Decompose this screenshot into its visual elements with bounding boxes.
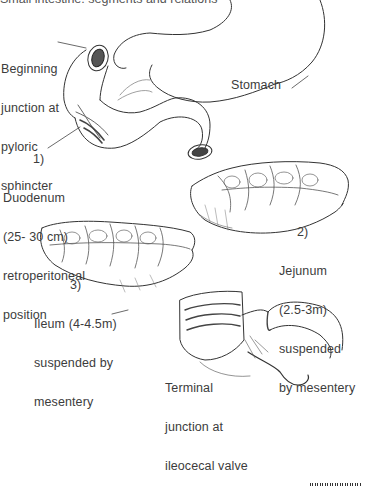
segment-number: 1) bbox=[3, 153, 85, 166]
label-ileum: 3) Ileum (4-4.5m) suspended by mesentery bbox=[34, 253, 117, 422]
barcode-mark bbox=[310, 483, 362, 486]
label-line: Duodenum bbox=[3, 192, 85, 205]
label-line: (25- 30 cm) bbox=[3, 231, 85, 244]
label-stomach: Stomach bbox=[231, 79, 281, 92]
label-line: mesentery bbox=[34, 396, 117, 409]
label-line: by mesentery bbox=[279, 382, 355, 395]
label-line: Terminal bbox=[165, 382, 248, 395]
label-line: ileocecal valve bbox=[165, 460, 248, 473]
label-line: suspended by bbox=[34, 357, 117, 370]
label-line: suspended bbox=[279, 343, 355, 356]
duodenum-drawing bbox=[64, 43, 213, 161]
label-line: Jejunum bbox=[279, 265, 355, 278]
label-line: (2.5-3m) bbox=[279, 304, 355, 317]
label-line: Ileum (4-4.5m) bbox=[34, 318, 117, 331]
label-line: junction at bbox=[1, 102, 59, 115]
segment-number: 3) bbox=[34, 279, 117, 292]
label-line: Beginning bbox=[1, 63, 59, 76]
label-jejunum: 2) Jejunum (2.5-3m) suspended by mesente… bbox=[279, 200, 355, 408]
segment-number: 2) bbox=[279, 226, 355, 239]
label-line: junction at bbox=[165, 421, 248, 434]
label-terminal-junction: Terminal junction at ileocecal valve bbox=[165, 356, 248, 486]
